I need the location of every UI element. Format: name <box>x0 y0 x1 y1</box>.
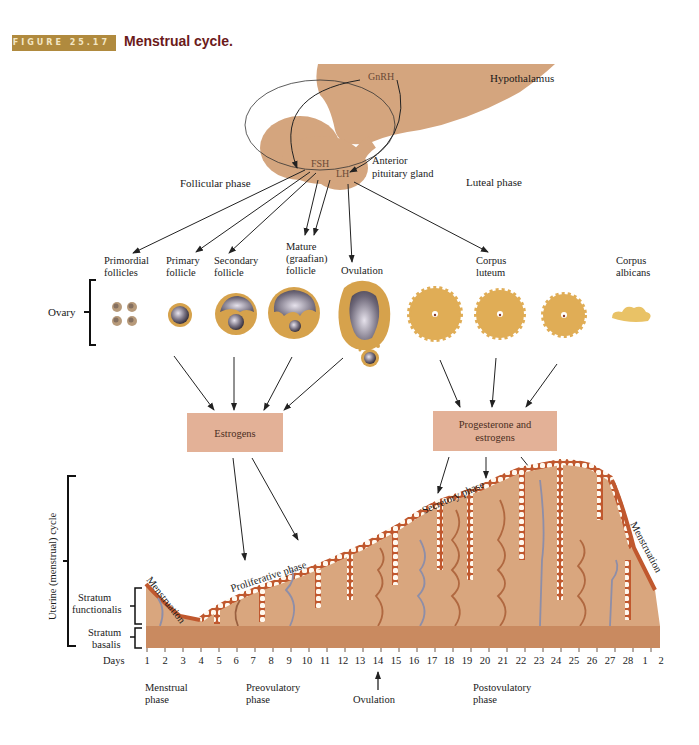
lh-label: LH <box>336 168 349 179</box>
stage-corpus-albicans-1: Corpus <box>616 255 646 266</box>
day-number: 12 <box>338 655 349 666</box>
primary-follicle <box>168 303 192 327</box>
day-number: 10 <box>302 655 313 666</box>
uterine-cycle-bracket <box>63 476 76 646</box>
day-number: 5 <box>216 655 221 666</box>
progesterone-label-2: estrogens <box>475 432 515 443</box>
luteal-phase-label: Luteal phase <box>466 176 522 188</box>
stage-ovulation: Ovulation <box>341 265 384 276</box>
days-label: Days <box>103 655 125 666</box>
day-number: 18 <box>444 655 455 666</box>
gnrh-label: GnRH <box>368 71 394 82</box>
postovulatory-phase-label-1: Postovulatory <box>473 682 532 693</box>
uterine-cycle-label: Uterine (menstrual) cycle <box>47 512 59 620</box>
stratum-basalis-label-1: Stratum <box>88 627 121 638</box>
day-number: 26 <box>587 655 598 666</box>
estrogens-label: Estrogens <box>214 428 255 439</box>
progesterone-label-1: Progesterone and <box>459 419 532 430</box>
day-number: 4 <box>198 655 204 666</box>
day-number: 19 <box>462 655 473 666</box>
ovary-label: Ovary <box>48 306 76 318</box>
anterior-pituitary-label-1: Anterior <box>372 155 408 166</box>
menstrual-phase-label-1: Menstrual <box>145 682 188 693</box>
follicular-phase-label: Follicular phase <box>180 177 251 189</box>
stratum-basalis <box>146 626 660 648</box>
corpus-luteum-3 <box>543 294 585 336</box>
stratum-basalis-label-2: basalis <box>92 639 121 650</box>
stage-secondary-2: follicle <box>214 267 244 278</box>
stage-primordial-2: follicles <box>104 267 138 278</box>
stage-corpus-luteum-1: Corpus <box>476 255 506 266</box>
ovulation-follicle <box>338 281 390 367</box>
day-number: 25 <box>569 655 580 666</box>
corpus-luteum-1 <box>409 288 461 340</box>
stage-mature-1: Mature <box>286 241 317 252</box>
hypothalamus-label: Hypothalamus <box>490 72 554 84</box>
day-number: 1 <box>144 655 149 666</box>
secondary-follicle <box>215 293 257 335</box>
day-number: 24 <box>551 655 562 666</box>
day-numbers: 1 2 3 4 5 6 7 8 9 10 11 12 13 14 15 16 1… <box>144 655 663 666</box>
stage-primary-2: follicle <box>166 267 196 278</box>
day-number: 20 <box>480 655 491 666</box>
day-number: 9 <box>286 655 291 666</box>
ovary-bracket <box>84 280 96 345</box>
stage-corpus-albicans-2: albicans <box>616 267 650 278</box>
ovary-stage-labels: Primordial follicles Primary follicle Se… <box>104 241 650 278</box>
primordial-follicles <box>112 302 137 326</box>
day-number: 13 <box>355 655 366 666</box>
day-number: 14 <box>373 655 384 666</box>
menstrual-cycle-diagram: GnRH FSH LH Hypothalamus Anterior pituit… <box>0 0 699 745</box>
day-number: 6 <box>233 655 238 666</box>
day-number: 15 <box>391 655 402 666</box>
stage-primary-1: Primary <box>166 255 201 266</box>
stage-secondary-1: Secondary <box>214 255 259 266</box>
stratum-brackets <box>130 588 142 648</box>
stratum-functionalis-label-2: functionalis <box>72 604 122 615</box>
corpus-albicans <box>612 307 651 322</box>
day-number: 7 <box>250 655 255 666</box>
menstrual-phase-label-2: phase <box>145 694 169 705</box>
day-number: 28 <box>623 655 634 666</box>
mature-graafian-follicle <box>268 287 320 339</box>
day-number: 8 <box>268 655 273 666</box>
day-number: 3 <box>180 655 185 666</box>
corpus-luteum-2 <box>476 290 524 338</box>
day-number: 21 <box>498 655 509 666</box>
day-number: 23 <box>534 655 545 666</box>
anterior-pituitary-label-2: pituitary gland <box>372 168 434 179</box>
day-number: 1 <box>642 655 647 666</box>
stage-mature-2: (graafian) <box>286 253 328 265</box>
day-number: 2 <box>658 655 663 666</box>
day-number: 11 <box>320 655 330 666</box>
day-ticks <box>147 648 651 652</box>
day-number: 27 <box>605 655 616 666</box>
stage-mature-3: follicle <box>286 265 316 276</box>
day-number: 17 <box>427 655 438 666</box>
postovulatory-phase-label-2: phase <box>473 694 497 705</box>
stage-corpus-luteum-2: luteum <box>476 267 505 278</box>
stage-primordial-1: Primordial <box>104 255 149 266</box>
day-number: 16 <box>409 655 420 666</box>
fsh-label: FSH <box>311 158 329 169</box>
day-number: 2 <box>162 655 167 666</box>
preovulatory-phase-label-2: phase <box>246 694 270 705</box>
preovulatory-phase-label-1: Preovulatory <box>246 682 301 693</box>
stratum-functionalis-label-1: Stratum <box>78 592 111 603</box>
day-number: 22 <box>516 655 527 666</box>
ovulation-label: Ovulation <box>353 694 396 705</box>
progesterone-box <box>433 411 557 451</box>
